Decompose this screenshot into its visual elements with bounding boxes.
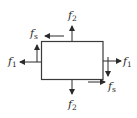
left-force-label: f1 [7, 55, 17, 69]
element-rectangle [42, 42, 104, 80]
top-shear-label: fs [29, 27, 38, 41]
bottom-shear-label: fs [107, 80, 116, 94]
right-force-label: f1 [122, 55, 132, 69]
bottom-force-label: f2 [67, 98, 77, 112]
stress-element-diagram: f2 f2 f1 f1 fs fs [0, 0, 137, 118]
top-force-label: f2 [67, 9, 77, 23]
